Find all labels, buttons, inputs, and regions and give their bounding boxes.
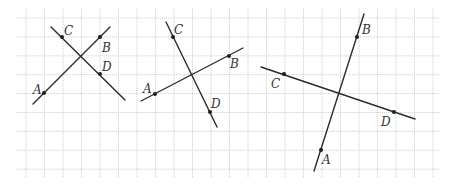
point-label-c: C	[174, 23, 183, 37]
diagram-canvas: ABCDABCDABCD	[0, 0, 453, 185]
point-a	[153, 92, 157, 96]
point-label-d: D	[380, 115, 391, 129]
point-c	[282, 72, 286, 76]
figure-3: ABCD	[261, 14, 415, 171]
point-label-d: D	[210, 97, 221, 111]
point-label-c: C	[64, 24, 73, 38]
point-label-d: D	[101, 60, 112, 74]
point-a	[42, 91, 46, 95]
point-label-a: A	[321, 153, 331, 167]
intersecting-lines-figures: ABCDABCDABCD	[0, 0, 453, 185]
point-label-a: A	[142, 82, 152, 96]
point-label-a: A	[32, 83, 42, 97]
point-b	[98, 35, 102, 39]
point-label-b: B	[101, 41, 111, 55]
figure-1: ABCD	[32, 24, 125, 104]
point-label-b: B	[361, 23, 371, 37]
point-label-c: C	[271, 77, 280, 91]
figure-2: ABCD	[141, 22, 243, 127]
point-a	[319, 148, 323, 152]
point-label-b: B	[229, 57, 239, 71]
point-b	[355, 35, 359, 39]
point-d	[392, 110, 396, 114]
